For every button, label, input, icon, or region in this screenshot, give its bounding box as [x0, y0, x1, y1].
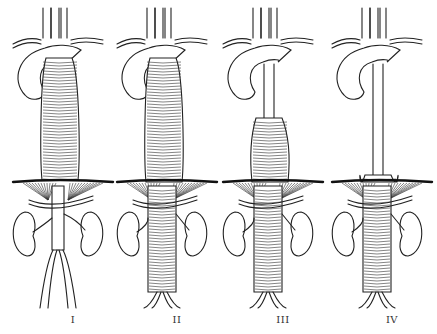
left-kidney — [223, 212, 245, 256]
right-kidney — [400, 212, 422, 256]
panel-iv — [332, 8, 432, 308]
panel-ii — [117, 8, 217, 308]
right-kidney — [81, 212, 103, 256]
left-kidney — [332, 212, 354, 256]
panel-i — [13, 8, 113, 308]
left-kidney — [117, 212, 139, 256]
panel-iii — [223, 8, 323, 308]
right-kidney — [185, 212, 207, 256]
panel-label-iv: IV — [386, 314, 398, 325]
right-kidney — [291, 212, 313, 256]
panel-label-iii: III — [276, 314, 289, 325]
panel-label-i: I — [71, 314, 75, 325]
aortic-aneurysm-classification-diagram: I II III IV — [0, 0, 437, 334]
aortic-arch — [228, 45, 291, 99]
diaphragm — [13, 180, 113, 182]
panel-label-ii: II — [173, 314, 182, 325]
abdominal-aorta — [52, 186, 64, 250]
aortic-arch — [337, 45, 400, 99]
left-kidney — [13, 212, 35, 256]
illustration — [0, 0, 437, 334]
